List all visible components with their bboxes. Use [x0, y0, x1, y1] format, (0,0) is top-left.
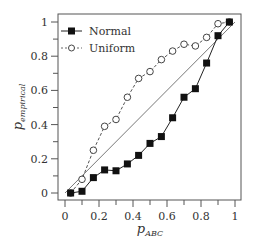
- legend-uniform-label: Uniform: [89, 42, 136, 55]
- data-point-square: [215, 32, 222, 39]
- data-point-circle: [192, 43, 199, 50]
- data-point-square: [67, 190, 74, 197]
- data-point-circle: [135, 75, 142, 82]
- y-tick-label: 0: [41, 187, 48, 200]
- data-point-square: [226, 19, 233, 26]
- x-axis-label: pABC: [137, 221, 163, 238]
- x-tick-label: 0: [62, 210, 69, 223]
- data-point-circle: [124, 94, 131, 101]
- data-point-square: [203, 60, 210, 67]
- calibration-chart: 00.20.40.60.81 00.20.40.60.81 Normal Uni…: [0, 0, 253, 248]
- data-point-square: [101, 166, 108, 173]
- x-tick-label: 1: [232, 210, 239, 223]
- x-tick-label: 0.8: [192, 210, 210, 223]
- data-point-circle: [147, 68, 154, 75]
- y-tick-label: 0.2: [31, 153, 49, 166]
- y-axis-label: pempirical: [10, 83, 27, 130]
- data-point-square: [192, 85, 199, 92]
- y-tick-label: 1: [41, 16, 48, 29]
- y-tick-label: 0.6: [31, 84, 49, 97]
- x-tick-label: 0.2: [90, 210, 108, 223]
- data-point-circle: [79, 176, 86, 183]
- data-point-circle: [181, 41, 188, 48]
- y-tick-label: 0.4: [31, 119, 49, 132]
- data-point-circle: [215, 20, 222, 27]
- data-point-square: [169, 114, 176, 121]
- data-point-circle: [90, 147, 97, 154]
- legend-normal-label: Normal: [89, 25, 131, 38]
- data-point-square: [158, 133, 165, 140]
- data-point-circle: [158, 56, 165, 63]
- data-point-square: [135, 152, 142, 159]
- legend-square-marker: [68, 28, 75, 35]
- data-point-square: [147, 140, 154, 147]
- data-point-square: [181, 94, 188, 101]
- data-point-square: [90, 174, 97, 181]
- y-tick-label: 0.8: [31, 50, 49, 63]
- data-point-square: [124, 160, 131, 167]
- data-point-circle: [169, 48, 176, 55]
- data-point-circle: [101, 123, 108, 130]
- legend-circle-marker: [69, 45, 75, 51]
- legend: Normal Uniform: [61, 25, 136, 55]
- y-axis-ticks: 00.20.40.60.81: [31, 16, 59, 200]
- data-point-square: [79, 188, 86, 195]
- x-axis-ticks: 00.20.40.60.81: [62, 200, 239, 223]
- data-point-circle: [203, 34, 210, 41]
- data-point-square: [113, 167, 120, 174]
- x-tick-label: 0.6: [158, 210, 176, 223]
- data-point-circle: [113, 116, 120, 123]
